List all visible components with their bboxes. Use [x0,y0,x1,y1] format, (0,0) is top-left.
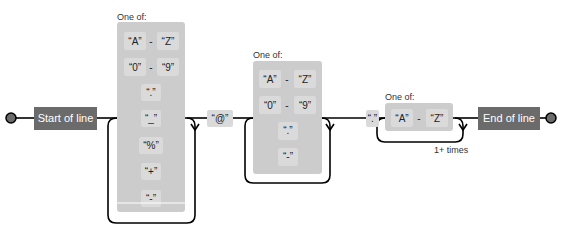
range-separator: - [149,62,152,73]
range-start-0: “0” [129,62,141,73]
char-class-group-1: One of: “A” - “Z” “0” - “9” “.” “_” “%” … [117,12,185,212]
range-start-A: “A” [128,36,141,47]
dot-literal-text: “.” [368,113,377,124]
regex-diagram: Start of line One of: “A” - “Z” “0” - “9… [0,0,571,235]
range-end-Z: “Z” [299,74,312,85]
end-of-line-anchor: End of line [478,107,540,130]
range-separator: - [417,113,420,124]
literal-hyphen: “-” [146,193,156,204]
char-class-group-2: One of: “A” - “Z” “0” - “9” “.” “-” [253,50,322,174]
end-of-line-label: End of line [483,112,535,124]
start-of-line-anchor: Start of line [34,107,97,130]
literal-dot: “.” [283,125,292,136]
range-end-Z: “Z” [162,36,175,47]
group-1-label: One of: [117,12,147,22]
dot-literal: “.” [366,110,379,127]
literal-underscore: “_” [145,113,157,124]
repeat-label: 1+ times [434,145,469,155]
range-start-0: “0” [264,100,276,111]
range-separator: - [285,100,288,111]
range-end-9: “9” [299,100,311,111]
start-of-line-label: Start of line [38,112,94,124]
range-separator: - [285,74,288,85]
at-literal-text: “@” [212,113,229,124]
range-start-A: “A” [395,113,408,124]
char-class-group-3: One of: “A” - “Z” [385,92,453,131]
literal-hyphen: “-” [283,151,293,162]
range-separator: - [149,36,152,47]
group-3-label: One of: [385,92,415,102]
literal-plus: “+” [145,166,158,177]
end-terminal-icon [546,113,556,123]
start-terminal-icon [6,113,16,123]
range-end-9: “9” [162,62,174,73]
range-start-A: “A” [263,74,276,85]
at-literal: “@” [207,110,233,127]
literal-dot: “.” [146,87,155,98]
literal-percent: “%” [143,140,159,151]
group-2-label: One of: [253,50,283,60]
range-end-Z: “Z” [431,113,444,124]
